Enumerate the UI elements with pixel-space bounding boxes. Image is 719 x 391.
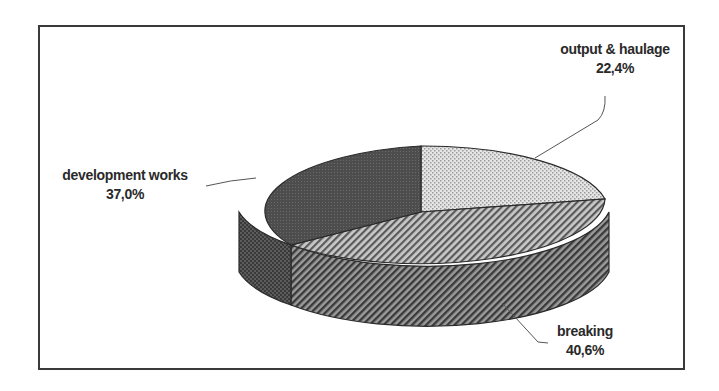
- label-breaking-name: breaking: [545, 322, 625, 341]
- label-breaking-value: 40,6%: [545, 341, 625, 360]
- label-development-value: 37,0%: [40, 185, 210, 204]
- label-output-haulage: output & haulage 22,4%: [540, 40, 690, 78]
- label-output-haulage-value: 22,4%: [540, 59, 690, 78]
- label-output-haulage-name: output & haulage: [540, 40, 690, 59]
- leader-line-output-haulage: [535, 96, 605, 158]
- label-development-name: development works: [40, 166, 210, 185]
- label-development-works: development works 37,0%: [40, 166, 210, 204]
- leader-line-development: [206, 178, 256, 186]
- label-breaking: breaking 40,6%: [545, 322, 625, 360]
